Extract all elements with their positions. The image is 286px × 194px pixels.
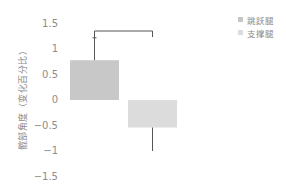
y-axis-label: 髋部角度（变化百分比） (16, 46, 29, 151)
legend-label: 支撑腿 (247, 27, 274, 39)
y-tick-label: 0.5 (28, 69, 58, 81)
y-tick-label: 1.5 (28, 18, 58, 30)
legend-item-support-leg: 支撑腿 (238, 26, 274, 39)
significance-bracket (95, 31, 153, 38)
y-tick-label: 0 (28, 94, 58, 106)
y-tick-label: −1.5 (28, 171, 58, 183)
legend-item-jump-leg: 跳跃腿 (238, 13, 274, 26)
y-tick-label: −1 (28, 145, 58, 157)
legend: 跳跃腿 支撑腿 (238, 13, 274, 39)
bar-2 (128, 100, 177, 128)
legend-swatch-icon (238, 17, 243, 22)
legend-swatch-icon (238, 30, 243, 35)
bar-chart: 1.510.50−0.5−1−1.5 髋部角度（变化百分比） 跳跃腿 支撑腿 (0, 0, 286, 194)
bar-1 (70, 60, 119, 100)
y-tick-label: 1 (28, 43, 58, 55)
y-tick-label: −0.5 (28, 120, 58, 132)
legend-label: 跳跃腿 (247, 14, 274, 26)
